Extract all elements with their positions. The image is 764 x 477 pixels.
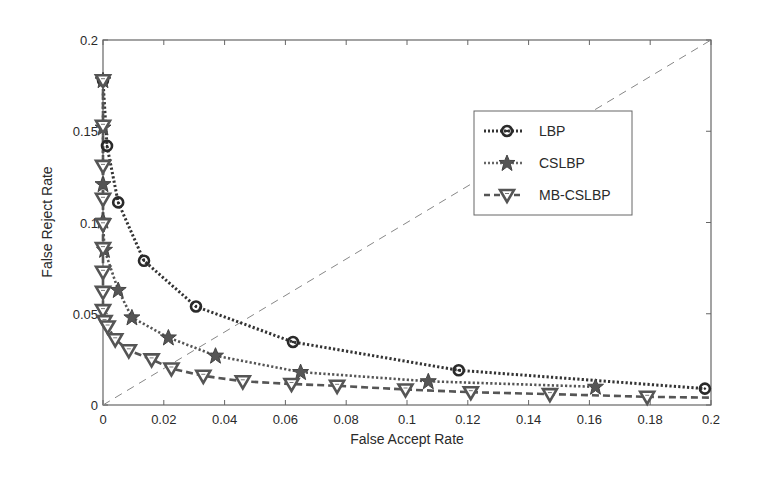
x-tick-label: 0.16 (577, 412, 602, 427)
x-tick-label: 0.12 (455, 412, 480, 427)
roc-chart: 00.020.040.060.080.10.120.140.160.180.20… (0, 0, 764, 477)
y-tick-label: 0 (91, 398, 98, 413)
x-tick-label: 0.18 (638, 412, 663, 427)
x-tick-label: 0.08 (334, 412, 359, 427)
y-axis-label: False Reject Rate (39, 166, 55, 277)
x-tick-label: 0.06 (273, 412, 298, 427)
x-tick-label: 0.1 (398, 412, 416, 427)
legend-label: LBP (539, 123, 565, 139)
x-tick-label: 0.2 (702, 412, 720, 427)
x-tick-label: 0.04 (212, 412, 237, 427)
x-axis-label: False Accept Rate (350, 431, 464, 447)
legend-label: MB-CSLBP (539, 187, 611, 203)
legend: LBP CSLBP MB-CSLBP (474, 111, 632, 215)
plot-area: 00.020.040.060.080.10.120.140.160.180.20… (73, 33, 720, 427)
x-tick-label: 0.02 (151, 412, 176, 427)
legend-label: CSLBP (539, 155, 585, 171)
y-tick-label: 0.15 (73, 124, 98, 139)
x-tick-label: 0 (99, 412, 106, 427)
x-tick-label: 0.14 (516, 412, 541, 427)
y-tick-label: 0.05 (73, 307, 98, 322)
y-tick-label: 0.2 (80, 33, 98, 48)
